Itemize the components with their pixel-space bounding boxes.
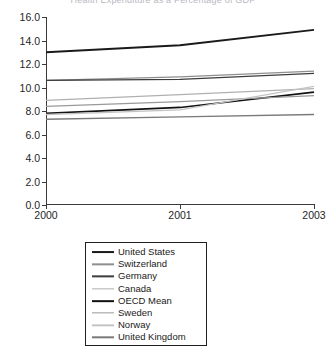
legend-swatch-icon	[92, 332, 114, 342]
legend-label: OECD Mean	[118, 296, 172, 306]
series-lines	[46, 17, 314, 205]
y-axis-label: 16.0	[8, 12, 40, 22]
y-axis-label: 6.0	[8, 130, 40, 140]
chart-root: Health Expenditure as a Percentage of GD…	[0, 0, 326, 353]
legend-item[interactable]: Switzerland	[86, 258, 206, 270]
legend-label: Canada	[118, 284, 151, 294]
x-axis-label: 2000	[34, 210, 57, 221]
legend-swatch-icon	[92, 320, 114, 330]
legend-label: Switzerland	[118, 259, 167, 269]
x-axis-label: 2001	[168, 210, 191, 221]
y-axis-label: 2.0	[8, 177, 40, 187]
legend-item[interactable]: Sweden	[86, 307, 206, 319]
series-line	[46, 115, 314, 120]
legend-label: United Kingdom	[118, 332, 186, 342]
legend-label: United States	[118, 247, 175, 257]
y-axis-label: 4.0	[8, 153, 40, 163]
legend-swatch-icon	[92, 284, 114, 294]
x-axis-label: 2003	[302, 210, 325, 221]
legend-item[interactable]: Canada	[86, 283, 206, 295]
y-axis-labels: 0.02.04.06.08.010.012.014.016.0	[0, 17, 40, 205]
series-line	[46, 96, 314, 107]
y-axis-label: 14.0	[8, 36, 40, 46]
legend-label: Germany	[118, 271, 157, 281]
legend-item[interactable]: United Kingdom	[86, 331, 206, 343]
y-axis-label: 8.0	[8, 106, 40, 116]
y-axis-label: 10.0	[8, 83, 40, 93]
chart-title: Health Expenditure as a Percentage of GD…	[0, 0, 326, 5]
legend-swatch-icon	[92, 296, 114, 306]
legend-swatch-icon	[92, 308, 114, 318]
series-line	[46, 30, 314, 52]
legend-item[interactable]: Norway	[86, 319, 206, 331]
legend: United StatesSwitzerlandGermanyCanadaOEC…	[85, 242, 207, 346]
legend-item[interactable]: United States	[86, 246, 206, 258]
legend-item[interactable]: Germany	[86, 270, 206, 282]
plot-area	[46, 17, 314, 205]
legend-item[interactable]: OECD Mean	[86, 295, 206, 307]
legend-label: Norway	[118, 320, 150, 330]
legend-swatch-icon	[92, 259, 114, 269]
legend-label: Sweden	[118, 308, 152, 318]
series-line	[46, 89, 314, 101]
legend-swatch-icon	[92, 271, 114, 281]
y-axis-label: 12.0	[8, 59, 40, 69]
legend-swatch-icon	[92, 247, 114, 257]
